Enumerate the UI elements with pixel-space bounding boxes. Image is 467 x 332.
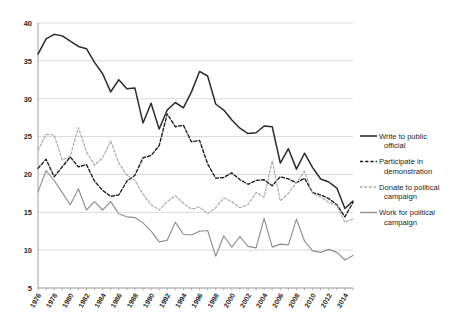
y-tick-label: 10	[24, 246, 32, 255]
y-axis-tick-labels: 510152025303540	[24, 19, 32, 293]
x-tick-label: 1990	[142, 292, 156, 309]
x-tick-label: 1986	[109, 292, 123, 309]
y-tick-label: 5	[28, 284, 32, 293]
legend-label-line2-3: campaign	[384, 218, 417, 227]
x-tick-label: 1982	[77, 292, 91, 309]
x-tick-label: 2008	[287, 292, 301, 309]
series-line-3	[38, 171, 353, 260]
chart-legend: Write to publicofficialParticipate indem…	[360, 132, 440, 227]
legend-label-line2-0: official	[384, 141, 406, 150]
x-tick-label: 1978	[45, 292, 59, 309]
x-tick-label: 2014	[335, 292, 349, 309]
chart-container: 510152025303540 197619781980198219841986…	[0, 0, 467, 332]
x-tick-label: 1994	[174, 292, 188, 309]
legend-label-line1-3: Work for political	[379, 208, 435, 217]
y-tick-label: 40	[24, 19, 32, 28]
legend-label-line1-0: Write to public	[379, 132, 427, 141]
series-line-1	[38, 114, 353, 217]
line-chart: 510152025303540 197619781980198219841986…	[0, 0, 467, 332]
data-series-group	[38, 34, 353, 260]
y-tick-label: 15	[24, 208, 32, 217]
y-tick-label: 25	[24, 132, 32, 141]
x-axis-tick-labels: 1976197819801982198419861988199019921994…	[29, 292, 350, 309]
x-tick-label: 1988	[125, 292, 139, 309]
legend-label-line2-1: demonstration	[384, 167, 432, 176]
y-tick-label: 30	[24, 95, 32, 104]
x-tick-label: 2000	[222, 292, 236, 309]
legend-label-line2-2: campaign	[384, 192, 417, 201]
legend-label-line1-1: Participate in	[379, 157, 423, 166]
x-tick-label: 2010	[303, 292, 317, 309]
y-tick-label: 20	[24, 170, 32, 179]
x-tick-label: 2004	[255, 292, 269, 309]
x-tick-label: 1998	[206, 292, 220, 309]
x-tick-label: 1996	[190, 292, 204, 309]
y-tick-label: 35	[24, 57, 32, 66]
x-tick-label: 1980	[61, 292, 75, 309]
x-tick-label: 2002	[239, 292, 253, 309]
x-tick-label: 1984	[93, 292, 107, 309]
series-line-0	[38, 34, 353, 208]
x-tick-label: 1976	[29, 292, 43, 309]
legend-label-line1-2: Donate to political	[379, 183, 440, 192]
x-tick-label: 2006	[271, 292, 285, 309]
x-tick-label: 2012	[319, 292, 333, 309]
x-tick-label: 1992	[158, 292, 172, 309]
